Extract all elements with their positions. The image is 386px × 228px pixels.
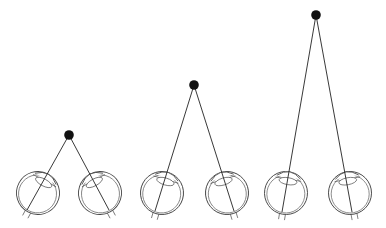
eye-right (200, 166, 255, 225)
scenario-near-target (6, 130, 131, 227)
scenario-far-target (260, 10, 376, 223)
scenario-medium-target (134, 80, 256, 225)
target-dot-icon (189, 80, 199, 90)
eye-left (6, 164, 67, 227)
eye-left (134, 166, 189, 225)
eye-right (325, 168, 376, 224)
target-dot-icon (311, 10, 321, 20)
target-dot-icon (64, 130, 74, 140)
diagram-canvas (0, 0, 386, 228)
eye-left (260, 168, 310, 223)
convergence-diagram (0, 0, 386, 228)
